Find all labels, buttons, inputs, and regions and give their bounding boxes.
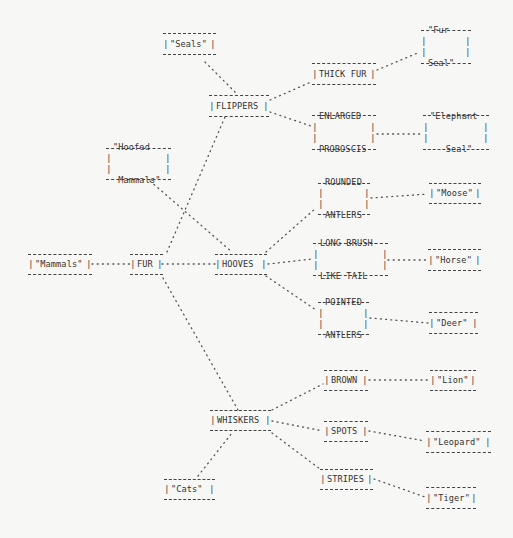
node-rounded-antlers: || ROUNDED ANTLERS ||: [318, 183, 370, 215]
edge-hooves-rounded: [266, 208, 316, 252]
edge-rounded-moose: [371, 194, 428, 198]
node-moose: | "Moose" |: [429, 183, 481, 204]
node-label: WHISKERS: [217, 415, 264, 426]
node-seals: | "Seals" |: [163, 33, 216, 55]
node-label: "Leopard": [433, 437, 484, 448]
box-right-edge: ||: [363, 303, 369, 334]
node-label: BROWN: [331, 375, 361, 386]
node-label-line-2: Seal": [428, 58, 464, 69]
node-label: "Mammals": [35, 259, 85, 270]
node-elephant-seal: || "Elephant Seal" ||: [423, 115, 489, 150]
edge-whiskers-spots: [272, 421, 323, 431]
node-hoofed-mammals: || "Hoofed Mammals" ||: [106, 148, 171, 180]
node-hooves: | HOOVES |: [215, 254, 267, 275]
edge-thickfur-furseal: [377, 52, 420, 70]
box-right-edge: |: [265, 411, 271, 430]
edge-spots-leopard: [369, 431, 425, 441]
node-label: FLIPPERS: [216, 101, 262, 112]
node-label: SPOTS: [331, 426, 361, 437]
node-mammals: | "Mammals" |: [28, 254, 92, 275]
box-right-edge: ||: [370, 116, 376, 149]
edge-hooves-tail: [268, 259, 312, 264]
node-cats: | "Cats" |: [164, 479, 215, 500]
node-spots: | SPOTS |: [324, 421, 368, 442]
node-label: "Cats": [171, 484, 208, 495]
box-right-edge: ||: [382, 244, 388, 275]
node-horse: | "Horse" |: [428, 249, 481, 271]
node-label-line-2: PROBOSCIS: [319, 144, 369, 155]
edge-fur-flippers: [167, 117, 225, 252]
node-label-line-1: "Elephant: [430, 111, 482, 122]
node-long-brush-like-tail: || LONG BRUSH- LIKE TAIL ||: [313, 243, 388, 276]
node-label-line-2: Seal": [430, 144, 482, 155]
edge-stripes-tiger: [374, 479, 425, 497]
box-right-edge: ||: [465, 31, 471, 63]
node-label-line-1: ENLARGED: [319, 111, 369, 122]
node-fur: | FUR |: [130, 254, 163, 275]
box-right-edge: |: [263, 96, 269, 116]
node-whiskers: | WHISKERS |: [210, 410, 271, 431]
node-label-line-1: "Fur: [428, 25, 464, 36]
node-label-line-1: "Hoofed: [113, 142, 164, 153]
node-label-line-1: LONG BRUSH-: [320, 238, 381, 249]
node-label-line-2: ANTLERS: [325, 330, 362, 341]
edge-fur-whiskers: [163, 278, 238, 410]
box-right-edge: |: [261, 255, 267, 274]
box-right-edge: |: [370, 64, 376, 84]
edge-whiskers-stripes: [272, 433, 320, 469]
box-right-edge: ||: [483, 116, 489, 149]
node-leopard: | "Leopard" |: [426, 431, 491, 453]
classification-diagram: | "Seals" | | FLIPPERS | | THICK FUR | |…: [0, 0, 513, 538]
node-pointed-antlers: || POINTED ANTLERS ||: [318, 302, 369, 335]
box-right-edge: |: [157, 255, 163, 274]
box-right-edge: |: [472, 313, 478, 333]
node-enlarged-proboscis: || ENLARGED PROBOSCIS ||: [312, 115, 376, 150]
box-right-edge: |: [362, 422, 368, 441]
edge-cats-whiskers: [198, 433, 232, 476]
node-label: THICK FUR: [319, 69, 369, 80]
node-label: "Moose": [436, 188, 474, 199]
node-label: "Seals": [170, 39, 209, 50]
edge-seals-flippers: [205, 62, 238, 95]
node-tiger: | "Tiger" |: [426, 487, 476, 509]
edge-whiskers-brown: [272, 384, 323, 410]
node-label-line-1: POINTED: [325, 297, 362, 308]
node-label-line-1: ROUNDED: [325, 177, 363, 188]
node-label: FUR: [137, 259, 156, 270]
edge-pointed-deer: [370, 318, 428, 323]
node-label: "Tiger": [433, 493, 470, 504]
box-right-edge: |: [475, 250, 481, 270]
node-label: "Horse": [435, 255, 474, 266]
node-thick-fur: | THICK FUR |: [312, 63, 376, 85]
box-right-edge: |: [485, 432, 491, 452]
node-label: "Deer": [436, 318, 471, 329]
box-right-edge: |: [475, 184, 481, 203]
box-right-edge: ||: [165, 149, 171, 179]
box-right-edge: |: [471, 488, 477, 508]
node-label: HOOVES: [222, 259, 260, 270]
edge-hooves-pointed: [266, 276, 316, 310]
node-label: "Lion": [437, 375, 469, 386]
edge-flippers-proboscis: [270, 112, 311, 126]
box-right-edge: |: [210, 34, 216, 54]
box-right-edge: |: [470, 371, 476, 390]
node-flippers: | FLIPPERS |: [209, 95, 269, 117]
node-brown: | BROWN |: [324, 370, 368, 391]
box-right-edge: ||: [364, 184, 370, 214]
edge-flippers-thickfur: [270, 82, 311, 100]
box-right-edge: |: [362, 371, 368, 390]
box-right-edge: |: [209, 480, 215, 499]
node-fur-seal: || "Fur Seal" ||: [421, 30, 471, 64]
box-right-edge: |: [86, 255, 92, 274]
node-deer: | "Deer" |: [429, 312, 478, 334]
node-label-line-2: Mammals": [113, 175, 164, 186]
box-right-edge: |: [367, 470, 373, 489]
node-label: STRIPES: [327, 474, 366, 485]
node-lion: | "Lion" |: [430, 370, 476, 391]
node-stripes: | STRIPES |: [320, 469, 373, 490]
